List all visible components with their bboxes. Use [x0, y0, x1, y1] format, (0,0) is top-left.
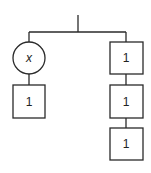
tree-diagram: x 1 1 1 1	[0, 0, 151, 173]
right-square-1-label: 1	[123, 51, 130, 65]
circle-label: x	[25, 51, 33, 65]
right-square-2-label: 1	[123, 95, 130, 109]
left-node-square: 1	[13, 85, 45, 118]
right-node-square-1: 1	[110, 42, 143, 74]
left-square-label: 1	[26, 95, 33, 109]
left-node-circle: x	[13, 42, 45, 74]
right-node-square-2: 1	[110, 85, 143, 118]
right-square-3-label: 1	[123, 137, 130, 151]
right-node-square-3: 1	[110, 128, 143, 160]
